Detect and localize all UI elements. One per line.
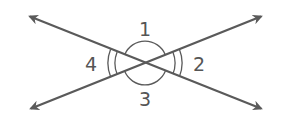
angle-3-arc xyxy=(125,71,166,85)
angle-4-label: 4 xyxy=(85,53,97,75)
angle-4-arc-inner xyxy=(115,52,117,74)
vertical-angles-diagram: 1 2 3 4 xyxy=(0,0,282,133)
angle-2-arc-outer xyxy=(179,49,182,76)
angle-2-arc-inner xyxy=(173,52,175,74)
angle-2-label: 2 xyxy=(193,53,205,75)
angle-1-arc xyxy=(125,41,166,55)
angle-4-arc-outer xyxy=(108,49,111,76)
angle-3-label: 3 xyxy=(139,88,151,110)
angle-1-label: 1 xyxy=(139,18,151,40)
